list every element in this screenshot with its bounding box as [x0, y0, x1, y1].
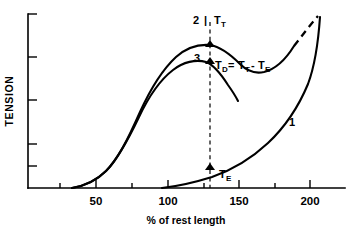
- te-base: T: [219, 168, 226, 180]
- chart-figure: 50 100 150 200 % of rest length TENSION …: [0, 0, 351, 233]
- x-axis-title: % of rest length: [147, 214, 226, 226]
- curve-2-dashed-extension: [294, 16, 318, 46]
- curve-3-label: 3: [194, 52, 200, 64]
- td-tt-subscript: T: [245, 65, 250, 74]
- xtick-label-50: 50: [90, 195, 103, 207]
- tt-annotation: T T: [214, 14, 226, 29]
- td-te-base: T: [258, 59, 265, 71]
- marker-te: [205, 163, 215, 170]
- tt-subscript: T: [221, 20, 226, 29]
- tension-length-chart: 50 100 150 200 % of rest length TENSION …: [0, 0, 351, 233]
- te-subscript: E: [226, 174, 232, 183]
- curve-1-label: 1: [289, 116, 295, 128]
- curve-2-label: 2: [193, 14, 199, 26]
- td-te-subscript: E: [265, 65, 271, 74]
- td-minus: -: [251, 59, 255, 71]
- td-tt-base: T: [238, 59, 245, 71]
- y-axis-ticks: [28, 14, 37, 166]
- y-axis-title: TENSION: [3, 76, 15, 127]
- xtick-label-100: 100: [158, 195, 177, 207]
- marker-td: [205, 57, 215, 64]
- td-base: T: [215, 59, 222, 71]
- xtick-label-150: 150: [229, 195, 248, 207]
- xtick-label-200: 200: [300, 195, 319, 207]
- annotation-separator-bar: |: [204, 14, 207, 26]
- tt-base: T: [214, 14, 221, 26]
- td-equals: =: [228, 59, 234, 71]
- marker-tt: [205, 40, 215, 47]
